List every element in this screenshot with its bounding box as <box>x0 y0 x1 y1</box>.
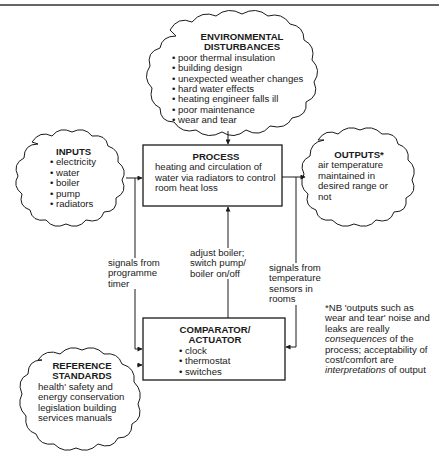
label-temperature-sensors: signals from temperature sensors in room… <box>269 263 329 305</box>
list-item: radiators <box>50 199 110 209</box>
comparator-list: clock thermostat switches <box>165 346 265 377</box>
process-description: heating and circulation of water via rad… <box>155 161 276 193</box>
reference-description: health' safety and energy conservation l… <box>38 381 124 423</box>
footnote-part3: of output <box>386 364 426 375</box>
process: PROCESS heating and circulation of water… <box>155 152 277 194</box>
footnote: *NB 'outputs such as wear and tear' nois… <box>325 303 431 376</box>
inputs: INPUTS electricity water boiler pump rad… <box>50 147 110 209</box>
outputs-description: air temperature maintained in desired ra… <box>318 159 388 201</box>
outputs: OUTPUTS* air temperature maintained in d… <box>318 150 400 202</box>
environmental-disturbances: ENVIRONMENTAL DISTURBANCES poor thermal … <box>172 32 312 126</box>
label-adjust-boiler: adjust boiler; switch pump/ boiler on/of… <box>190 248 252 279</box>
list-item: wear and tear <box>172 115 312 125</box>
footnote-emphasis-consequences: consequences <box>325 333 387 344</box>
comparator-actuator: COMPARATOR/ ACTUATOR clock thermostat sw… <box>165 325 265 377</box>
footnote-part1: *NB 'outputs such as wear and tear' nois… <box>325 302 430 334</box>
list-item: switches <box>179 367 265 377</box>
footnote-emphasis-interpretations: interpretations <box>325 364 386 375</box>
inputs-list: electricity water boiler pump radiators <box>50 157 110 209</box>
feedback-control-diagram: ENVIRONMENTAL DISTURBANCES poor thermal … <box>0 0 439 466</box>
reference-standards: REFERENCE STANDARDS health' safety and e… <box>38 361 126 423</box>
environmental-list: poor thermal insulation building design … <box>172 53 312 126</box>
label-programme-timer: signals from programme timer <box>108 258 164 289</box>
